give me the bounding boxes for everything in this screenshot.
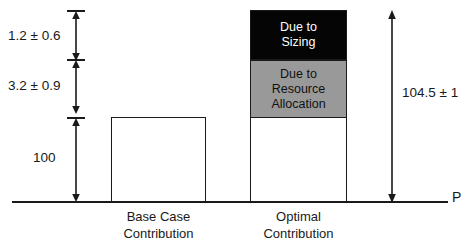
double-arrow-resource xyxy=(68,60,84,114)
double-arrow-sizing xyxy=(68,11,84,61)
category-label-base-case-line1: Base Case xyxy=(111,208,206,225)
bar-base-case xyxy=(111,117,206,202)
category-label-optimal-line2: Contribution xyxy=(250,225,347,242)
x-axis xyxy=(12,201,448,203)
segment-sizing-line1: Due to xyxy=(280,20,317,35)
segment-sizing-line2: Sizing xyxy=(280,35,317,50)
bar-segment-due-to-resource-allocation: Due to Resource Allocation xyxy=(250,60,347,118)
bar-segment-due-to-sizing: Due to Sizing xyxy=(250,10,347,60)
dimension-label-sizing: 1.2 ± 0.6 xyxy=(8,28,60,44)
category-label-optimal-line1: Optimal xyxy=(250,208,347,225)
dimension-label-total: 104.5 ± 1 xyxy=(402,85,458,101)
category-label-base-case: Base Case Contribution xyxy=(111,208,206,242)
waterfall-contribution-chart: 1.2 ± 0.6 3.2 ± 0.9 100 Base Case Contri… xyxy=(0,0,465,251)
double-arrow-base xyxy=(68,118,84,202)
category-label-optimal: Optimal Contribution xyxy=(250,208,347,242)
segment-resource-line3: Allocation xyxy=(271,97,325,112)
bar-segment-base-contribution xyxy=(250,117,347,202)
dimension-label-base: 100 xyxy=(33,150,56,166)
segment-resource-line2: Resource xyxy=(271,82,325,97)
x-axis-label: P xyxy=(452,190,461,204)
dimension-label-resource: 3.2 ± 0.9 xyxy=(8,78,60,94)
double-arrow-total xyxy=(384,10,400,203)
category-label-base-case-line2: Contribution xyxy=(111,225,206,242)
segment-resource-line1: Due to xyxy=(271,67,325,82)
